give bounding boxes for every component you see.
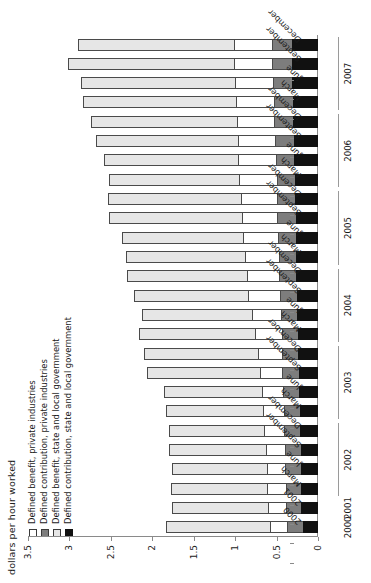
bar-group[interactable] xyxy=(28,440,318,459)
value-axis-tick xyxy=(235,537,236,541)
bar-segment xyxy=(235,77,273,89)
value-axis-tick-label: 3 xyxy=(64,545,74,571)
bar-segment xyxy=(83,96,236,108)
bar-segment xyxy=(78,39,234,51)
year-group-labels: 20002001200220032004200520062007 xyxy=(338,35,364,537)
bar-group[interactable] xyxy=(28,209,318,228)
bar-group[interactable] xyxy=(28,54,318,73)
bar-segment xyxy=(68,58,235,70)
year-group-rule xyxy=(338,114,339,187)
bar-group[interactable] xyxy=(28,286,318,305)
year-group-rule xyxy=(338,423,339,496)
value-axis-tick xyxy=(194,537,195,541)
bar-segment xyxy=(172,502,268,514)
bar-segment xyxy=(171,483,268,495)
year-group-label: 2006 xyxy=(343,140,353,162)
bar-segment xyxy=(260,367,282,379)
category-tick xyxy=(290,563,294,564)
bar-segment xyxy=(96,135,238,147)
bar-segment xyxy=(238,135,275,147)
bar-segment xyxy=(127,270,246,282)
year-group-label: 2003 xyxy=(343,372,353,394)
bar-segment xyxy=(81,77,235,89)
value-axis-tick xyxy=(318,537,319,541)
bar-segment xyxy=(242,212,278,224)
bar-segment xyxy=(172,463,266,475)
bar-segment xyxy=(248,290,279,302)
year-group-label: 2002 xyxy=(343,449,353,471)
category-labels: 20002001MarchJuneSeptemberDecemberMarchJ… xyxy=(296,35,336,537)
bar-segment xyxy=(237,116,274,128)
bar-segment xyxy=(134,290,248,302)
bar-segment xyxy=(108,193,241,205)
bar-segment xyxy=(147,367,260,379)
bar-segment xyxy=(109,212,242,224)
bar-segment xyxy=(252,309,281,321)
bar-segment xyxy=(126,251,245,263)
value-axis-tick-label: 0.5 xyxy=(272,545,282,571)
value-axis-tick xyxy=(277,537,278,541)
value-axis-tick xyxy=(69,537,70,541)
year-group-rule xyxy=(338,37,339,110)
bar-segment xyxy=(166,521,270,533)
bar-segment xyxy=(164,386,262,398)
value-axis-tick xyxy=(111,537,112,541)
bar-segment xyxy=(234,39,272,51)
year-group-rule xyxy=(338,191,339,264)
value-axis-tick-label: 2 xyxy=(147,545,157,571)
year-group-rule xyxy=(338,346,339,419)
bar-segment xyxy=(266,444,285,456)
bar-segment xyxy=(166,405,264,417)
value-axis-tick xyxy=(152,537,153,541)
year-group-label: 2001 xyxy=(343,497,353,519)
value-axis-tick-label: 3.5 xyxy=(23,545,33,571)
bar-group[interactable] xyxy=(28,479,318,498)
bar-segment xyxy=(144,348,258,360)
figure: dollars per hour worked Defined benefit,… xyxy=(0,0,371,583)
bar-segment xyxy=(234,58,272,70)
bar-segment xyxy=(91,116,237,128)
year-group-rule xyxy=(338,269,339,342)
bar-segment xyxy=(169,425,264,437)
category-tick xyxy=(290,543,294,544)
bar-segment xyxy=(122,232,243,244)
value-axis-tick-label: 2.5 xyxy=(106,545,116,571)
bar-segment xyxy=(109,174,239,186)
bar-segment xyxy=(139,328,255,340)
bar-group[interactable] xyxy=(28,518,318,537)
bar-group[interactable] xyxy=(28,460,318,479)
value-axis-title: dollars per hour worked xyxy=(6,460,17,575)
year-group-label: 2004 xyxy=(343,294,353,316)
bar-segment xyxy=(169,444,266,456)
year-group-label: 2007 xyxy=(343,63,353,85)
value-axis-tick xyxy=(28,537,29,541)
bar-group[interactable] xyxy=(28,363,318,382)
bar-segment xyxy=(104,154,238,166)
chart-canvas: dollars per hour worked Defined benefit,… xyxy=(0,0,371,583)
bar-segment xyxy=(241,193,277,205)
year-group-label: 2005 xyxy=(343,217,353,239)
stacked-bar[interactable] xyxy=(68,58,318,70)
value-axis-tick-label: 1 xyxy=(230,545,240,571)
year-group-label: 2000 xyxy=(343,516,353,538)
bar-segment xyxy=(142,309,251,321)
bar-segment xyxy=(270,521,287,533)
value-axis-tick-label: 1.5 xyxy=(189,545,199,571)
bar-group[interactable] xyxy=(28,498,318,517)
bar-group[interactable] xyxy=(28,131,318,150)
value-axis-tick-label: 0 xyxy=(313,545,323,571)
